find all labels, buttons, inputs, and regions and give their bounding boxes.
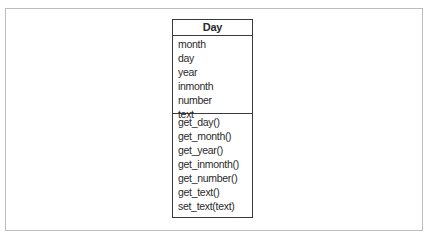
attribute-day: day <box>178 51 252 65</box>
attribute-inmonth: inmonth <box>178 79 252 93</box>
attribute-month: month <box>178 37 252 51</box>
method-get-day: get_day() <box>178 115 252 129</box>
class-name: Day <box>173 20 252 36</box>
method-get-inmonth: get_inmonth() <box>178 157 252 171</box>
method-get-year: get_year() <box>178 143 252 157</box>
method-get-text: get_text() <box>178 185 252 199</box>
attributes-section: month day year inmonth number text <box>173 36 252 114</box>
attribute-number: number <box>178 93 252 107</box>
methods-section: get_day() get_month() get_year() get_inm… <box>173 114 252 214</box>
method-get-month: get_month() <box>178 129 252 143</box>
attribute-year: year <box>178 65 252 79</box>
uml-class-day: Day month day year inmonth number text g… <box>172 19 253 218</box>
method-set-text: set_text(text) <box>178 199 252 213</box>
method-get-number: get_number() <box>178 171 252 185</box>
